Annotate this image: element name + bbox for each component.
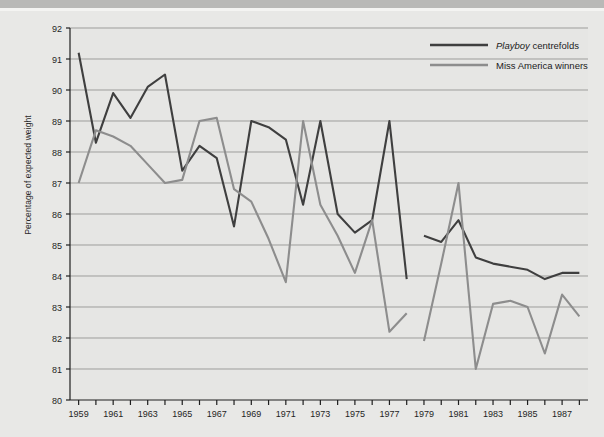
x-tick-label: 1959 [69,409,89,419]
x-tick-label: 1975 [345,409,365,419]
y-tick-label: 80 [52,396,62,406]
x-tick-label: 1963 [138,409,158,419]
x-tick-label: 1965 [172,409,192,419]
y-tick-label: 91 [52,55,62,65]
line-chart-plot: 8081828384858687888990919219591961196319… [0,0,604,437]
y-tick-label: 90 [52,86,62,96]
legend-label: Miss America winners [496,60,588,71]
y-tick-label: 86 [52,210,62,220]
x-tick-label: 1979 [414,409,434,419]
x-tick-label: 1981 [448,409,468,419]
y-tick-label: 87 [52,179,62,189]
legend-label-emphasis: Playboy [496,40,531,51]
y-tick-label: 85 [52,241,62,251]
legend-label: Playboy centrefolds [496,40,579,51]
x-tick-label: 1969 [241,409,261,419]
y-tick-label: 89 [52,117,62,127]
x-tick-label: 1971 [276,409,296,419]
x-tick-label: 1977 [379,409,399,419]
y-tick-label: 81 [52,365,62,375]
x-tick-label: 1983 [483,409,503,419]
x-tick-label: 1961 [103,409,123,419]
y-tick-label: 82 [52,334,62,344]
x-tick-label: 1967 [207,409,227,419]
y-tick-label: 84 [52,272,62,282]
y-tick-label: 88 [52,148,62,158]
x-tick-label: 1985 [518,409,538,419]
y-tick-label: 83 [52,303,62,313]
chart-figure: Percentage of expected weight 8081828384… [0,0,604,437]
x-tick-label: 1987 [552,409,572,419]
x-tick-label: 1973 [310,409,330,419]
y-tick-label: 92 [52,24,62,34]
legend-label-rest: centrefolds [530,40,579,51]
